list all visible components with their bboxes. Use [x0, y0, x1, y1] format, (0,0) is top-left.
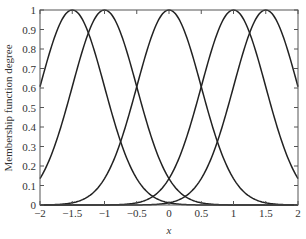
- y-tick-label: 0.5: [22, 102, 36, 114]
- axis-ticks: −2−1.5−1−0.500.511.5200.10.20.30.40.50.6…: [22, 4, 301, 219]
- mf-curve-4: [40, 10, 298, 205]
- plot-frame: [40, 10, 298, 205]
- x-tick-label: −0.5: [127, 207, 147, 219]
- y-axis-label: Membership function degree: [2, 44, 14, 171]
- mf-curve-2: [40, 10, 298, 205]
- x-tick-label: −1: [99, 207, 111, 219]
- y-tick-label: 0.2: [22, 160, 36, 172]
- y-tick-label: 0.6: [22, 82, 36, 94]
- y-tick-label: 0: [31, 199, 37, 211]
- membership-curves: [40, 10, 298, 205]
- membership-chart: −2−1.5−1−0.500.511.5200.10.20.30.40.50.6…: [0, 0, 306, 239]
- x-tick-label: 1.5: [259, 207, 273, 219]
- x-tick-label: 0: [166, 207, 172, 219]
- y-tick-label: 0.4: [22, 121, 36, 133]
- x-tick-label: 1: [231, 207, 237, 219]
- y-tick-label: 0.9: [22, 24, 36, 36]
- y-tick-label: 0.3: [22, 141, 36, 153]
- y-tick-label: 1: [31, 4, 37, 16]
- x-tick-label: −1.5: [62, 207, 82, 219]
- y-tick-label: 0.7: [22, 63, 36, 75]
- y-tick-label: 0.1: [22, 180, 36, 192]
- mf-curve-3: [40, 10, 298, 205]
- y-tick-label: 0.8: [22, 43, 36, 55]
- x-axis-label: x: [166, 224, 172, 236]
- mf-curve-1: [40, 10, 298, 205]
- mf-curve-5: [40, 10, 298, 205]
- x-tick-label: 0.5: [194, 207, 208, 219]
- x-tick-label: 2: [295, 207, 301, 219]
